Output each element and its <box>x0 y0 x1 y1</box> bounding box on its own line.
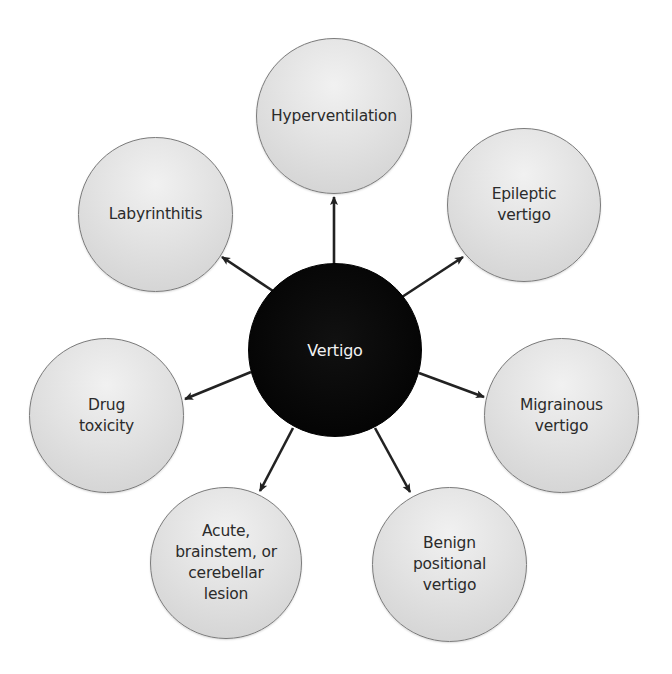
arrow-to-migrainous-vertigo <box>419 373 484 397</box>
arrow-to-drug-toxicity <box>185 372 251 399</box>
node-label: Benign positional vertigo <box>407 533 492 596</box>
node-label: Hyperventilation <box>265 106 403 127</box>
node-label: Drug toxicity <box>73 395 140 437</box>
center-node-label: Vertigo <box>301 340 368 361</box>
node-label: Labyrinthitis <box>103 204 209 225</box>
node-acute-brainstem-cerebellar-lesion: Acute, brainstem, or cerebellar lesion <box>150 487 302 639</box>
arrow-to-acute-lesion <box>260 428 293 491</box>
arrow-to-benign-positional-vertigo <box>375 428 410 492</box>
node-labyrinthitis: Labyrinthitis <box>78 137 233 292</box>
node-label: Epileptic vertigo <box>486 184 563 226</box>
node-drug-toxicity: Drug toxicity <box>29 338 184 493</box>
arrow-to-epileptic-vertigo <box>402 257 463 297</box>
arrow-to-labyrinthitis <box>222 257 273 291</box>
node-label: Acute, brainstem, or cerebellar lesion <box>169 521 283 605</box>
node-hyperventilation: Hyperventilation <box>256 38 412 194</box>
node-label: Migrainous vertigo <box>514 395 609 437</box>
node-migrainous-vertigo: Migrainous vertigo <box>484 338 639 493</box>
node-benign-positional-vertigo: Benign positional vertigo <box>372 487 527 642</box>
vertigo-causes-diagram: Vertigo Hyperventilation Epileptic verti… <box>0 0 672 674</box>
center-node-vertigo: Vertigo <box>248 263 422 437</box>
node-epileptic-vertigo: Epileptic vertigo <box>447 128 601 282</box>
